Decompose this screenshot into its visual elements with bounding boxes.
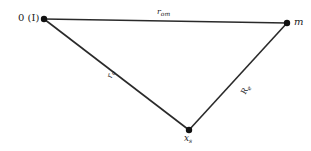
diagram-graphic xyxy=(0,0,311,151)
edge-origin-m-label: rom xyxy=(157,8,170,17)
edge-origin-m-label-sub: om xyxy=(161,10,170,17)
node-origin-dot xyxy=(41,16,47,22)
edge-origin-m xyxy=(44,19,287,23)
edge-m-xs xyxy=(189,23,287,130)
triangle-diagram: 0 (I) m xs rom ro Re xyxy=(0,0,311,151)
edge-origin-xs xyxy=(44,19,189,130)
node-m-label: m xyxy=(294,17,303,27)
node-origin-label: 0 (I) xyxy=(18,13,39,23)
node-m-dot xyxy=(284,20,290,26)
node-xs-label: xs xyxy=(184,134,192,144)
node-xs-label-sub: s xyxy=(189,137,192,144)
